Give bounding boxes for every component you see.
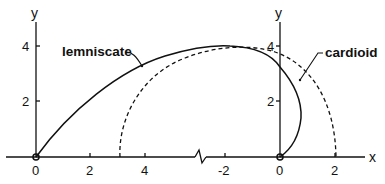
lemniscate-label: lemniscate [62,45,132,59]
right-y-axis [276,22,280,157]
x-axis-label: x [369,150,376,164]
cardioid-leader [300,53,323,80]
right-x-tick-2: 2 [331,164,338,177]
left-y-axis-label: y [31,6,38,20]
x-axis [6,150,365,163]
left-x-tick-4: 4 [141,164,148,177]
left-y-axis [36,22,40,157]
left-y-tick-4: 4 [22,40,29,53]
right-y-tick-4: 4 [267,40,274,53]
right-y-axis-label: y [275,6,282,20]
left-x-tick-2: 2 [86,164,93,177]
cardioid-label: cardioid [325,46,378,60]
right-y-tick-2: 2 [267,95,274,108]
right-x-tick-0: 0 [276,164,283,177]
lemniscate-curve [36,46,301,157]
figure-graphics [0,0,385,184]
left-x-tick-0: 0 [32,164,39,177]
curve-comparison-figure: y 4 2 0 2 4 y 4 2 -2 0 2 x lemniscate ca… [0,0,385,184]
left-y-tick-2: 2 [22,95,29,108]
dashed-curve [120,47,336,157]
right-x-tick-neg2: -2 [218,164,230,177]
